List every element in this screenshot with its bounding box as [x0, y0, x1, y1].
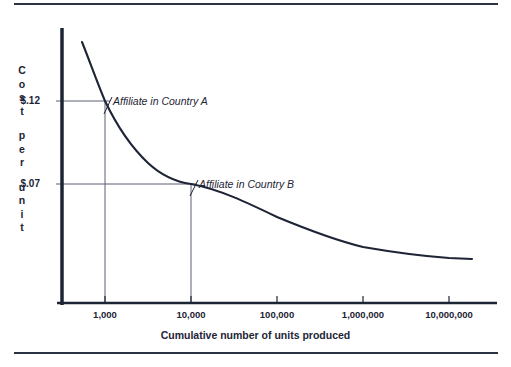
y-axis-title-word: Cost	[14, 64, 30, 118]
annotation-label-country-a: Affiliate in Country A	[113, 95, 208, 107]
y-axis-title: Costperunit	[14, 64, 30, 235]
experience-curve-figure: $.12 $.07 1,000 10,000 100,000 1,000,000…	[0, 0, 511, 367]
y-axis-title-char: i	[14, 208, 30, 222]
y-axis-title-char: t	[14, 221, 30, 235]
x-axis-title: Cumulative number of units produced	[0, 329, 511, 341]
y-axis-title-char: p	[14, 129, 30, 143]
y-axis-title-char: s	[14, 91, 30, 105]
y-axis-title-char: t	[14, 105, 30, 119]
y-axis-title-word: per	[14, 129, 30, 170]
y-axis-title-char: u	[14, 181, 30, 195]
experience-curve-line	[82, 42, 472, 259]
annotation-label-country-b: Affiliate in Country B	[199, 178, 294, 190]
x-tick-label-10000: 10,000	[176, 309, 205, 320]
y-axis-title-char: e	[14, 143, 30, 157]
y-axis-title-char: o	[14, 78, 30, 92]
y-axis-title-char: C	[14, 64, 30, 78]
x-tick-label-10000000: 10,000,000	[425, 309, 473, 320]
x-tick-label-1000: 1,000	[93, 309, 117, 320]
y-axis-title-word: unit	[14, 181, 30, 235]
x-tick-label-100000: 100,000	[260, 309, 294, 320]
y-axis-title-char: n	[14, 194, 30, 208]
y-axis-title-char: r	[14, 156, 30, 170]
x-tick-label-1000000: 1,000,000	[342, 309, 384, 320]
